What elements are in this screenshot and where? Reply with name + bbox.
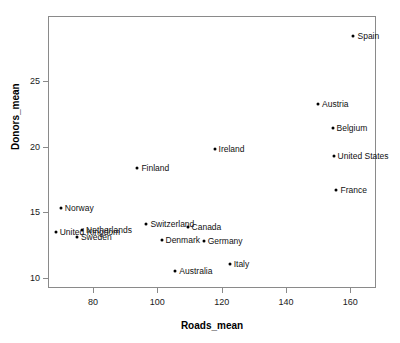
x-tick-mark [157, 288, 158, 293]
data-point [54, 230, 57, 233]
data-point-label: Canada [192, 222, 222, 232]
y-tick-mark [43, 147, 48, 148]
y-tick-mark [43, 81, 48, 82]
data-point-label: France [340, 185, 366, 195]
data-point-label: Belgium [337, 123, 368, 133]
data-point [332, 154, 335, 157]
x-axis-title: Roads_mean [181, 320, 243, 331]
x-tick-label: 140 [278, 297, 293, 307]
y-tick-label: 25 [20, 76, 40, 86]
data-point-label: Germany [208, 236, 243, 246]
y-tick-mark [43, 212, 48, 213]
data-point-label: Finland [141, 163, 169, 173]
data-point-label: Sweden [81, 232, 112, 242]
x-tick-label: 80 [88, 297, 98, 307]
x-tick-label: 100 [150, 297, 165, 307]
x-tick-label: 160 [343, 297, 358, 307]
y-tick-mark [43, 278, 48, 279]
data-point-label: Australia [179, 266, 212, 276]
y-tick-label: 20 [20, 142, 40, 152]
data-point [213, 148, 216, 151]
data-point-label: Italy [234, 259, 250, 269]
data-point [331, 127, 334, 130]
data-point [186, 225, 189, 228]
plot-frame [48, 16, 376, 288]
data-point [335, 188, 338, 191]
x-tick-mark [93, 288, 94, 293]
data-point [202, 239, 205, 242]
data-point [136, 166, 139, 169]
y-axis-title: Donors_mean [10, 83, 21, 150]
data-point [145, 222, 148, 225]
data-point [352, 34, 355, 37]
data-point [59, 207, 62, 210]
data-point-label: Ireland [219, 144, 245, 154]
y-tick-label: 10 [20, 273, 40, 283]
data-point [160, 238, 163, 241]
data-point [174, 270, 177, 273]
data-point [228, 263, 231, 266]
data-point-label: Denmark [166, 235, 200, 245]
data-point [75, 236, 78, 239]
data-point [317, 102, 320, 105]
x-tick-label: 120 [214, 297, 229, 307]
scatter-plot: 80100120140160 10152025 SpainAustriaBelg… [0, 0, 400, 343]
x-tick-mark [286, 288, 287, 293]
data-point-label: Austria [322, 99, 348, 109]
data-point-label: Spain [357, 31, 379, 41]
data-point-label: United States [338, 151, 389, 161]
data-point-label: Norway [65, 203, 94, 213]
y-tick-label: 15 [20, 207, 40, 217]
x-tick-mark [222, 288, 223, 293]
x-tick-mark [350, 288, 351, 293]
